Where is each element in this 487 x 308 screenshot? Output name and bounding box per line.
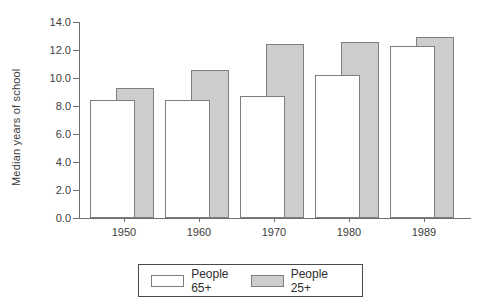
x-tick-label: 1970 (246, 226, 302, 238)
y-tick-label: 10.0 (33, 72, 71, 84)
y-tick-label: 8.0 (33, 100, 71, 112)
x-tick (349, 218, 350, 222)
plot-area: 0.02.04.06.08.010.012.014.01950196019701… (79, 22, 471, 219)
bar-people-65plus-1980 (315, 75, 360, 218)
y-tick (73, 106, 79, 107)
x-tick-label: 1960 (171, 226, 227, 238)
y-tick-label: 14.0 (33, 16, 71, 28)
y-tick-label: 12.0 (33, 44, 71, 56)
x-tick-label: 1980 (321, 226, 377, 238)
bar-people-65plus-1970 (240, 96, 285, 218)
y-tick (73, 50, 79, 51)
bar-people-65plus-1960 (165, 100, 210, 218)
y-tick-label: 2.0 (33, 184, 71, 196)
bar-chart-figure: Median years of school 0.02.04.06.08.010… (0, 0, 487, 308)
legend-label: People 65+ (191, 267, 250, 295)
y-tick-label: 4.0 (33, 156, 71, 168)
legend-item: People 65+ (151, 267, 251, 295)
y-tick-label: 0.0 (33, 212, 71, 224)
y-axis-label: Median years of school (10, 55, 22, 200)
bar-people-65plus-1950 (90, 100, 135, 218)
legend-item: People 25+ (251, 267, 351, 295)
y-tick (73, 134, 79, 135)
x-tick (199, 218, 200, 222)
x-tick (124, 218, 125, 222)
y-tick (73, 162, 79, 163)
legend: People 65+People 25+ (138, 264, 363, 297)
y-tick-label: 6.0 (33, 128, 71, 140)
legend-swatch (151, 275, 184, 287)
legend-swatch (251, 275, 284, 287)
bar-people-65plus-1989 (390, 46, 435, 218)
y-tick (73, 22, 79, 23)
x-tick (274, 218, 275, 222)
y-tick (73, 78, 79, 79)
y-tick (73, 190, 79, 191)
legend-label: People 25+ (291, 267, 350, 295)
x-tick-label: 1950 (96, 226, 152, 238)
x-tick-label: 1989 (396, 226, 452, 238)
x-tick (424, 218, 425, 222)
y-tick (73, 218, 79, 219)
